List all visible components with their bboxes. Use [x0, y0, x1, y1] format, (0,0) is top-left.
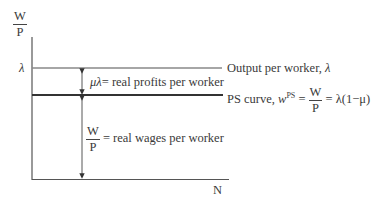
y-axis-label: W P — [13, 10, 27, 38]
ps-curve-label: PS curve, wPS = W P = λ(1−μ) — [227, 86, 370, 114]
ps-label-text: PS curve, — [227, 92, 278, 106]
wage-text: = real wages per worker — [103, 131, 224, 145]
output-per-worker-label: Output per worker, λ — [227, 62, 331, 75]
ps-eq2: = λ(1−μ) — [326, 92, 371, 106]
ps-fraction: W P — [309, 86, 323, 114]
profit-annotation: μλ= real profits per worker — [90, 76, 224, 89]
ps-eq1: = — [298, 92, 305, 106]
y-label-denominator: P — [13, 25, 27, 39]
y-label-numerator: W — [13, 10, 27, 25]
wage-frac-den: P — [86, 140, 100, 154]
x-axis-label: N — [213, 184, 222, 197]
output-label-symbol: λ — [325, 61, 330, 75]
profit-symbol: μλ — [90, 75, 102, 89]
ps-frac-den: P — [309, 101, 323, 115]
lambda-tick-label: λ — [19, 62, 24, 75]
wage-frac-num: W — [86, 125, 100, 140]
wage-fraction: W P — [86, 125, 100, 153]
wage-annotation: W P = real wages per worker — [86, 125, 224, 153]
output-label-text: Output per worker, — [227, 61, 325, 75]
ps-superscript: PS — [286, 91, 295, 100]
profit-text: = real profits per worker — [102, 75, 224, 89]
ps-frac-num: W — [309, 86, 323, 101]
